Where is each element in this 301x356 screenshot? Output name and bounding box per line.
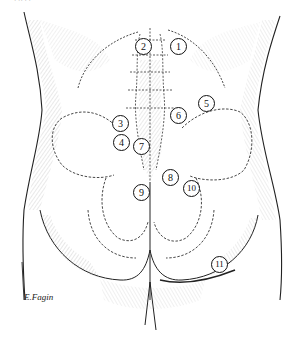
marker-label: 9 [139, 188, 144, 198]
marker-label: 8 [168, 173, 173, 183]
landmark-marker-8: 8 [162, 169, 179, 186]
artist-signature: E.Fagin [24, 292, 53, 302]
marker-label: 2 [141, 42, 146, 52]
landmark-marker-3: 3 [112, 115, 129, 132]
marker-label: 11 [215, 260, 224, 269]
upper-back-shading-right [190, 22, 260, 72]
marker-label: 6 [176, 111, 181, 121]
marker-label: 1 [176, 42, 181, 52]
marker-label: 7 [139, 142, 144, 152]
marker-label: 5 [204, 99, 209, 109]
landmark-marker-4: 4 [113, 134, 130, 151]
landmark-marker-1: 1 [170, 38, 187, 55]
anatomical-illustration [0, 0, 301, 356]
landmark-marker-9: 9 [133, 184, 150, 201]
marker-label: 10 [187, 184, 196, 193]
marker-label: 4 [119, 138, 124, 148]
landmark-marker-11: 11 [211, 256, 228, 273]
marker-label: 3 [118, 119, 123, 129]
upper-back-shading [40, 20, 110, 72]
landmark-marker-10: 10 [183, 180, 200, 197]
landmark-marker-5: 5 [198, 95, 215, 112]
gluteal-fold-shading [100, 278, 205, 309]
landmark-marker-6: 6 [170, 107, 187, 124]
landmark-marker-2: 2 [135, 38, 152, 55]
spine-shading [138, 60, 162, 182]
landmark-marker-7: 7 [133, 138, 150, 155]
